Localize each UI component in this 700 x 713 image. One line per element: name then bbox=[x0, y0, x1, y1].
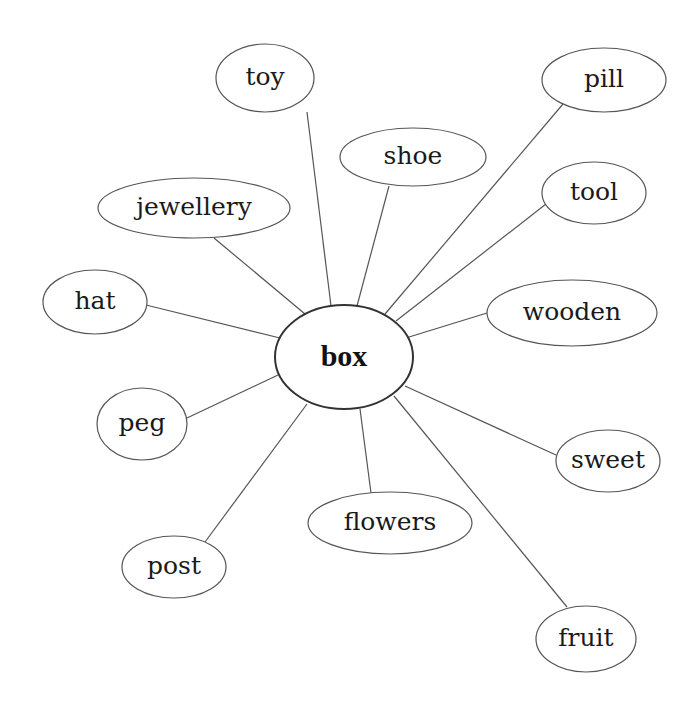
edge-sweet bbox=[405, 386, 556, 455]
node-sweet: sweet bbox=[556, 430, 660, 492]
node-post: post bbox=[122, 536, 226, 598]
node-fruit: fruit bbox=[536, 606, 636, 672]
center-label: box bbox=[321, 339, 368, 372]
node-toy: toy bbox=[216, 44, 314, 112]
edge-peg bbox=[187, 375, 278, 418]
node-label: pill bbox=[584, 64, 624, 93]
edge-hat bbox=[146, 305, 280, 338]
node-label: flowers bbox=[344, 507, 437, 536]
node-label: peg bbox=[119, 408, 166, 437]
center-node: box bbox=[275, 305, 413, 409]
edge-flowers bbox=[360, 409, 371, 493]
node-peg: peg bbox=[97, 388, 187, 460]
node-hat: hat bbox=[43, 270, 147, 334]
edge-shoe bbox=[357, 186, 389, 306]
node-label: wooden bbox=[523, 297, 621, 326]
node-label: toy bbox=[245, 62, 285, 91]
word-web-diagram: toyshoepilltooljewelleryhatwoodenpegswee… bbox=[0, 0, 700, 713]
edge-toy bbox=[307, 112, 331, 306]
node-label: jewellery bbox=[133, 192, 252, 221]
node-wooden: wooden bbox=[487, 280, 657, 346]
node-label: post bbox=[147, 551, 201, 580]
node-label: shoe bbox=[384, 141, 443, 170]
edge-jewellery bbox=[214, 238, 305, 314]
node-tool: tool bbox=[542, 162, 646, 224]
node-pill: pill bbox=[542, 48, 666, 112]
edge-post bbox=[205, 404, 307, 542]
node-label: fruit bbox=[558, 623, 613, 652]
edge-wooden bbox=[409, 313, 487, 337]
node-flowers: flowers bbox=[308, 492, 472, 554]
node-label: hat bbox=[74, 286, 115, 315]
node-label: tool bbox=[570, 177, 618, 206]
node-label: sweet bbox=[571, 445, 645, 474]
node-shoe: shoe bbox=[340, 128, 486, 186]
node-jewellery: jewellery bbox=[98, 178, 290, 238]
